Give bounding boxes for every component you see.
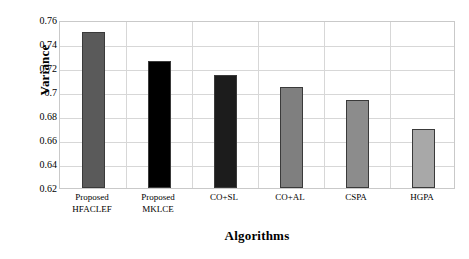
y-axis-tick-label: 0.7 bbox=[24, 88, 57, 98]
plot-area bbox=[59, 21, 455, 189]
gridline-horizontal bbox=[60, 118, 454, 119]
gridline-vertical bbox=[126, 22, 127, 188]
gridline-vertical bbox=[324, 22, 325, 188]
y-axis-tick-label: 0.74 bbox=[24, 40, 57, 50]
y-axis-tick-label: 0.62 bbox=[24, 184, 57, 194]
gridline-vertical bbox=[258, 22, 259, 188]
x-axis-tick-label: HGPA bbox=[389, 192, 455, 204]
x-axis-tick-label-line: HFACLEF bbox=[59, 204, 125, 216]
bar bbox=[412, 129, 435, 188]
gridline-horizontal bbox=[60, 142, 454, 143]
gridline-horizontal bbox=[60, 46, 454, 47]
bar bbox=[346, 100, 369, 188]
y-axis-tick-label: 0.64 bbox=[24, 160, 57, 170]
gridline-horizontal bbox=[60, 70, 454, 71]
x-axis-tick-label-line: Proposed bbox=[59, 192, 125, 204]
y-axis-tick-label: 0.66 bbox=[24, 136, 57, 146]
gridline-horizontal bbox=[60, 166, 454, 167]
y-axis-tick-label: 0.76 bbox=[24, 16, 57, 26]
bar bbox=[214, 75, 237, 188]
x-axis-tick-label-line: HGPA bbox=[389, 192, 455, 204]
y-axis-tick-label: 0.72 bbox=[24, 64, 57, 74]
gridline-horizontal bbox=[60, 94, 454, 95]
x-axis-tick-label-line: CO+SL bbox=[191, 192, 257, 204]
x-axis-tick-label: CO+SL bbox=[191, 192, 257, 204]
x-axis-tick-label-line: CO+AL bbox=[257, 192, 323, 204]
x-axis-tick-label: ProposedHFACLEF bbox=[59, 192, 125, 215]
bar bbox=[148, 61, 171, 188]
gridline-vertical bbox=[390, 22, 391, 188]
x-axis-tick-label: CO+AL bbox=[257, 192, 323, 204]
x-axis-tick-label: ProposedMKLCE bbox=[125, 192, 191, 215]
x-axis-tick-label: CSPA bbox=[323, 192, 389, 204]
x-axis-tick-label-line: MKLCE bbox=[125, 204, 191, 216]
y-axis-tick-label: 0.68 bbox=[24, 112, 57, 122]
x-axis-title: Algorithms bbox=[59, 228, 455, 244]
y-axis-tick-labels: 0.760.740.720.70.680.660.640.62 bbox=[24, 0, 57, 259]
gridline-vertical bbox=[192, 22, 193, 188]
x-axis-tick-label-line: CSPA bbox=[323, 192, 389, 204]
bar bbox=[82, 32, 105, 188]
bar-chart: Variance 0.760.740.720.70.680.660.640.62… bbox=[0, 0, 469, 259]
bar bbox=[280, 87, 303, 188]
x-axis-tick-label-line: Proposed bbox=[125, 192, 191, 204]
x-axis-tick-labels: ProposedHFACLEFProposedMKLCECO+SLCO+ALCS… bbox=[59, 192, 455, 228]
